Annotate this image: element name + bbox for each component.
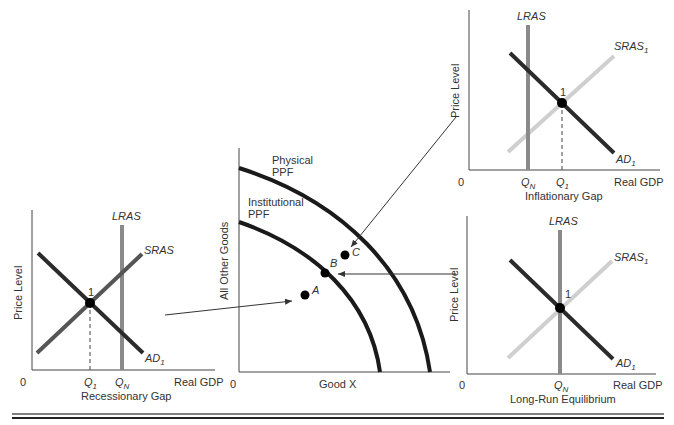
physical-ppf-label-2: PPF	[272, 166, 294, 178]
ad-label: AD1	[615, 357, 636, 372]
arrow-recessionary-to-a	[165, 301, 292, 315]
equilibrium-point	[85, 298, 95, 308]
point-a-label: A	[311, 284, 319, 296]
origin-label: 0	[20, 376, 26, 388]
institutional-ppf-label-2: PPF	[248, 208, 270, 220]
point-label: 1	[565, 288, 571, 300]
x-axis-label: Real GDP	[613, 379, 663, 391]
inflationary-gap-panel: 1 LRAS SRAS1 AD1 Price Level 0 QN Q1 Rea…	[449, 10, 664, 202]
arrow-inflationary-to-c	[351, 117, 456, 247]
panel-title: Inflationary Gap	[525, 190, 603, 202]
lras-label: LRAS	[517, 10, 546, 22]
x-axis-label: Real GDP	[174, 376, 224, 388]
long-run-equilibrium-panel: 1 LRAS SRAS1 AD1 Price Level 0 QN Real G…	[448, 215, 663, 405]
institutional-ppf-label: Institutional	[248, 196, 304, 208]
x-axis-label: Real GDP	[614, 176, 664, 188]
sras-label: SRAS1	[614, 251, 648, 266]
physical-ppf-label: Physical	[272, 154, 313, 166]
lras-label: LRAS	[112, 210, 141, 222]
equilibrium-point	[557, 98, 567, 108]
point-c	[341, 251, 350, 260]
origin-label: 0	[458, 176, 464, 188]
y-axis-label: Price Level	[449, 64, 461, 118]
equilibrium-point	[555, 303, 565, 313]
point-c-label: C	[352, 246, 360, 258]
qn-label: QN	[554, 379, 569, 394]
y-axis-label: All Other Goods	[218, 221, 230, 300]
point-label: 1	[560, 86, 566, 98]
sras-label: SRAS	[144, 244, 175, 256]
panel-title: Recessionary Gap	[81, 390, 172, 402]
ad-label: AD1	[615, 153, 636, 168]
point-a	[301, 291, 310, 300]
panel-title: Long-Run Equilibrium	[510, 393, 616, 405]
institutional-ppf-curve	[239, 222, 380, 372]
lras-label: LRAS	[549, 215, 578, 227]
x-axis-label: Good X	[319, 378, 357, 390]
qn-label: QN	[521, 176, 536, 191]
qn-label: QN	[115, 376, 130, 391]
point-b	[321, 269, 330, 278]
point-label: 1	[88, 286, 94, 298]
origin-label: 0	[459, 379, 465, 391]
recessionary-gap-panel: 1 LRAS SRAS AD1 Price Level 0 Q1 QN Real…	[12, 210, 224, 402]
y-axis-label: Price Level	[448, 268, 460, 322]
q1-label: Q1	[84, 376, 97, 391]
ppf-panel: Physical PPF Institutional PPF A B C All…	[218, 148, 450, 390]
point-b-label: B	[330, 257, 337, 269]
q1-label: Q1	[556, 176, 569, 191]
economics-diagram: 1 LRAS SRAS AD1 Price Level 0 Q1 QN Real…	[0, 0, 674, 425]
sras-label: SRAS1	[614, 40, 648, 55]
ad-label: AD1	[144, 352, 165, 367]
y-axis-label: Price Level	[12, 266, 24, 320]
origin-label: 0	[230, 378, 236, 390]
